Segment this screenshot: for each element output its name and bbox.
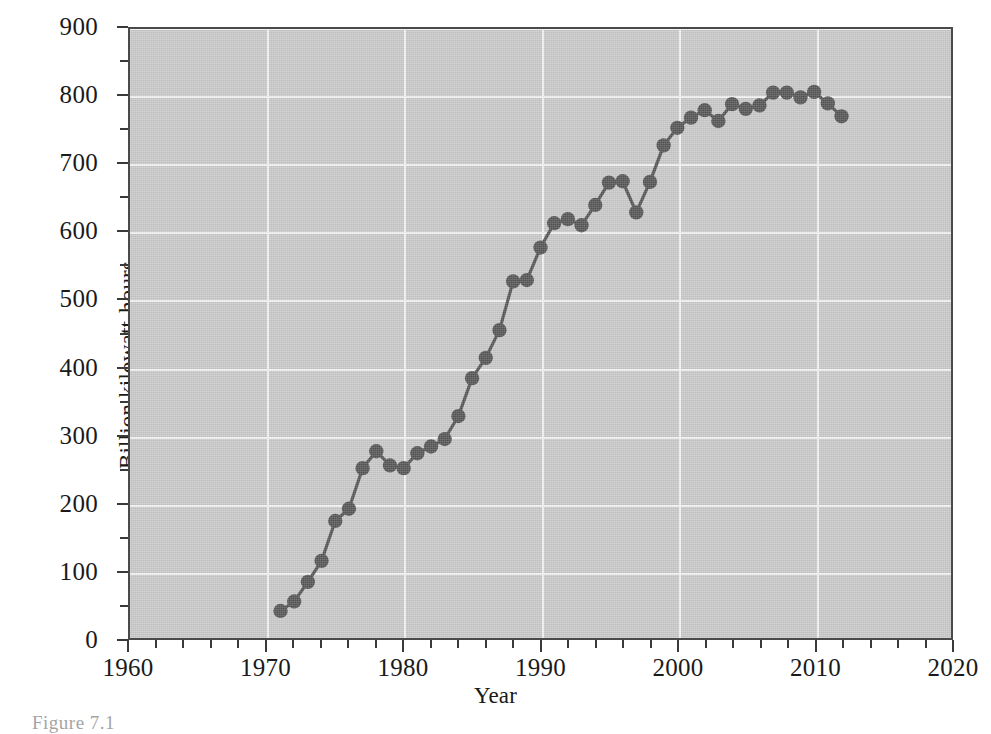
y-axis-tick-label: 500	[60, 286, 98, 311]
data-point-marker: 1995: 673	[602, 175, 616, 189]
x-axis-minor-tick	[760, 640, 762, 648]
x-axis-tick	[402, 640, 404, 652]
data-point-marker: 1974: 114	[314, 554, 328, 568]
data-point-marker: 1983: 294	[438, 432, 452, 446]
y-axis-tick	[117, 26, 128, 28]
data-point-marker: 2001: 769	[684, 110, 698, 124]
x-axis-tick	[677, 640, 679, 652]
x-axis-minor-tick	[732, 640, 734, 648]
data-point-marker: 1981: 273	[410, 446, 424, 460]
x-axis-tick	[540, 640, 542, 652]
x-axis-minor-tick	[210, 640, 212, 648]
data-point-marker: 2002: 780	[698, 103, 712, 117]
data-point-marker: 1986: 414	[479, 351, 493, 365]
data-point-marker: 2011: 790	[821, 96, 835, 110]
data-point-marker: 1979: 255	[383, 458, 397, 472]
y-axis-tick-label: 100	[60, 559, 98, 584]
y-axis-tick	[117, 162, 128, 164]
data-series-line: 1971: 401972: 541973: 831974: 1141975: 1…	[130, 29, 951, 638]
data-point-marker: 1978: 276	[369, 444, 383, 458]
x-axis-minor-tick	[430, 640, 432, 648]
data-point-marker: 2000: 754	[670, 121, 684, 135]
data-point-marker: 1994: 640	[588, 198, 602, 212]
y-axis-tick	[117, 367, 128, 369]
x-axis-minor-tick	[705, 640, 707, 648]
x-axis-minor-tick	[512, 640, 514, 648]
y-axis-tick	[117, 94, 128, 96]
data-point-marker: 1985: 384	[465, 371, 479, 385]
x-axis-minor-tick	[347, 640, 349, 648]
y-axis-tick	[117, 571, 128, 573]
y-axis-tick-label: 800	[60, 82, 98, 107]
x-axis-minor-tick	[897, 640, 899, 648]
data-point-marker: 2008: 806	[780, 85, 794, 99]
x-axis-minor-tick	[182, 640, 184, 648]
y-axis-minor-tick	[120, 128, 128, 130]
x-axis-minor-tick	[650, 640, 652, 648]
data-point-marker: 2009: 799	[793, 90, 807, 104]
y-axis-tick-label: 600	[60, 218, 98, 243]
x-axis-title: Year	[0, 683, 991, 709]
x-axis-minor-tick	[237, 640, 239, 648]
data-point-marker: 1975: 173	[328, 514, 342, 528]
x-axis-tick-label: 1970	[206, 655, 326, 680]
y-axis-minor-tick	[120, 401, 128, 403]
data-point-marker: 1982: 283	[424, 439, 438, 453]
y-axis-tick-label: 0	[85, 627, 98, 652]
data-point-marker: 1977: 251	[355, 461, 369, 475]
x-axis-tick-label: 1960	[68, 655, 188, 680]
data-point-marker: 1991: 613	[547, 216, 561, 230]
y-axis-tick-label: 700	[60, 150, 98, 175]
x-axis-tick	[952, 640, 954, 652]
y-axis-minor-tick	[120, 469, 128, 471]
y-axis-tick	[117, 230, 128, 232]
x-axis-tick-label: 1990	[481, 655, 601, 680]
x-axis-minor-tick	[595, 640, 597, 648]
data-point-marker: 2012: 771	[834, 109, 848, 123]
data-point-marker: 2006: 787	[752, 98, 766, 112]
y-axis-tick-label: 300	[60, 423, 98, 448]
data-point-marker: 1976: 191	[342, 502, 356, 516]
data-point-marker: 1980: 251	[397, 461, 411, 475]
y-axis-tick	[117, 503, 128, 505]
x-axis-minor-tick	[457, 640, 459, 648]
data-point-marker: 1989: 529	[520, 273, 534, 287]
x-axis-minor-tick	[870, 640, 872, 648]
y-axis-minor-tick	[120, 196, 128, 198]
y-axis-tick	[117, 298, 128, 300]
x-axis-tick-label: 2020	[893, 655, 991, 680]
x-axis-tick	[265, 640, 267, 652]
x-axis-minor-tick	[842, 640, 844, 648]
y-axis-tick	[117, 435, 128, 437]
data-point-marker: 1987: 455	[492, 323, 506, 337]
y-axis-minor-tick	[120, 605, 128, 607]
y-axis-minor-tick	[120, 537, 128, 539]
data-point-marker: 2005: 782	[739, 102, 753, 116]
x-axis-minor-tick	[155, 640, 157, 648]
plot-area: 1971: 401972: 541973: 831974: 1141975: 1…	[128, 27, 953, 640]
data-point-marker: 1972: 54	[287, 594, 301, 608]
x-axis-minor-tick	[925, 640, 927, 648]
x-axis-minor-tick	[622, 640, 624, 648]
data-point-marker: 1993: 610	[574, 218, 588, 232]
y-axis-tick-label: 400	[60, 355, 98, 380]
x-axis-tick-label: 2010	[756, 655, 876, 680]
y-axis-tick-label: 200	[60, 491, 98, 516]
data-point-marker: 1998: 674	[643, 175, 657, 189]
data-point-marker: 1997: 629	[629, 205, 643, 219]
data-point-marker: 1973: 83	[301, 575, 315, 589]
x-axis-tick-label: 2000	[618, 655, 738, 680]
data-point-marker: 1999: 728	[656, 138, 670, 152]
x-axis-minor-tick	[787, 640, 789, 648]
x-axis-tick-label: 1980	[343, 655, 463, 680]
data-point-marker: 2010: 807	[807, 85, 821, 99]
y-axis-tick-label: 900	[60, 14, 98, 39]
x-axis-minor-tick	[375, 640, 377, 648]
series-polyline	[281, 92, 842, 611]
data-point-marker: 1990: 577	[533, 240, 547, 254]
data-point-marker: 1992: 619	[561, 212, 575, 226]
figure-caption: Figure 7.1	[32, 712, 115, 734]
y-axis-minor-tick	[120, 60, 128, 62]
x-axis-tick	[127, 640, 129, 652]
